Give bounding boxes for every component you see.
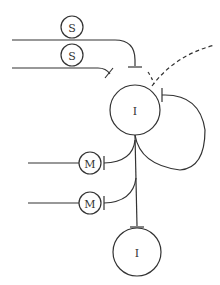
label-s2: S xyxy=(68,50,76,63)
label-i1: I xyxy=(133,105,137,118)
dashed-projection xyxy=(152,45,215,86)
dashed-projection-short xyxy=(148,72,154,84)
label-s1: S xyxy=(68,22,76,35)
label-i2: I xyxy=(135,247,139,260)
m2-branch xyxy=(104,178,136,203)
neural-circuit-diagram: S S I M M I xyxy=(0,0,220,285)
input-line-2 xyxy=(12,68,110,74)
label-m2: M xyxy=(84,198,95,211)
label-m1: M xyxy=(84,158,95,171)
m1-branch xyxy=(104,140,135,163)
